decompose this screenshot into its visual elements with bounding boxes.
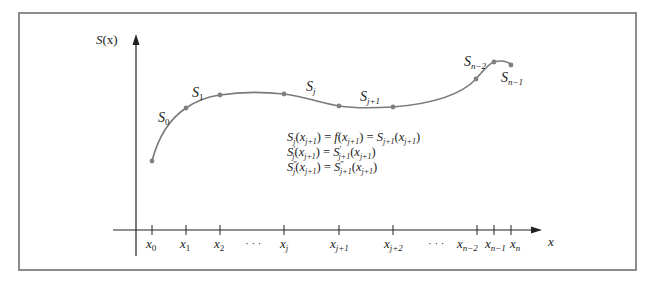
segment-labels: S0 S1 Sj Sj+1 Sn−2 Sn−1 — [158, 54, 523, 127]
segment-label-s1: S1 — [192, 85, 204, 102]
tick-label-xj1: xj+1 — [329, 236, 349, 253]
knot-xj — [282, 92, 287, 97]
x-axis-arrow-icon — [531, 227, 542, 234]
tick-label-x1: x1 — [179, 236, 190, 253]
tick-label-x2: x2 — [213, 236, 224, 253]
equation-first-derivative-match: S′j(xj+1) = S′j+1(xj+1) — [287, 144, 376, 161]
knot-x2 — [218, 93, 223, 98]
continuity-equations: Sj(xj+1) = f(xj+1) = Sj+1(xj+1) S′j(xj+1… — [287, 130, 420, 176]
tick-label-xj2: xj+2 — [383, 236, 403, 253]
ellipsis-right: · · · — [428, 237, 445, 249]
tick-label-x0: x0 — [145, 236, 157, 253]
knot-xj1 — [337, 104, 342, 109]
knot-x0 — [150, 159, 155, 164]
tick-label-xn1: xn−1 — [484, 236, 506, 253]
tick-label-xj: xj — [279, 236, 289, 253]
knot-xn1 — [492, 60, 497, 65]
tick-label-xn: xn — [509, 236, 521, 253]
y-axis-label: S(x) — [96, 32, 118, 47]
knot-x1 — [184, 106, 189, 111]
tick-label-xn2: xn−2 — [456, 236, 478, 253]
segment-label-sj: Sj — [306, 79, 316, 96]
ellipsis-left: · · · — [245, 237, 262, 249]
segment-label-s0: S0 — [158, 110, 170, 127]
equation-second-derivative-match: S″j(xj+1) = S″j+1(xj+1) — [287, 159, 377, 176]
segment-label-sj1: Sj+1 — [360, 89, 380, 106]
y-axis-arrow-icon — [133, 34, 140, 45]
x-tick-labels: x0 x1 x2 · · · xj xj+1 xj+2 · · · xn−2 x… — [145, 236, 521, 253]
knot-xn2 — [474, 77, 479, 82]
cubic-spline-diagram: S(x) x x0 x1 x2 · · · xj xj+1 — [0, 0, 653, 285]
knot-xn — [509, 63, 514, 68]
equation-value-match: Sj(xj+1) = f(xj+1) = Sj+1(xj+1) — [287, 130, 420, 146]
knot-xj2 — [391, 105, 396, 110]
segment-label-sn1: Sn−1 — [501, 70, 523, 87]
x-axis-label: x — [547, 234, 554, 249]
segment-label-sn2: Sn−2 — [464, 54, 487, 71]
